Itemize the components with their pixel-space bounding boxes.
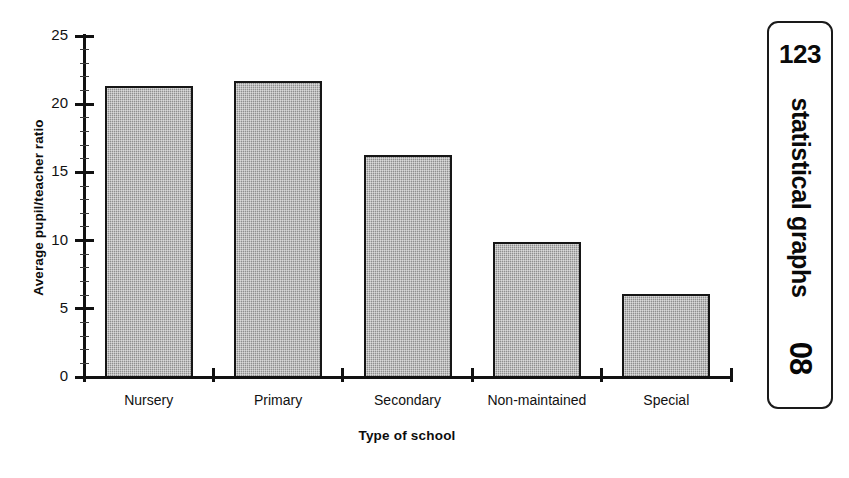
y-axis-major-tick — [75, 307, 94, 310]
y-axis-minor-tick — [80, 117, 89, 118]
side-tab-section-label: statistical graphs — [786, 97, 815, 297]
x-axis-line — [83, 376, 731, 379]
x-axis-title: Type of school — [83, 428, 731, 443]
side-tab-section: statistical graphs — [769, 75, 831, 325]
y-axis-minor-tick — [80, 199, 89, 200]
side-tab-number: 123 — [769, 39, 831, 70]
y-axis-minor-tick — [80, 281, 89, 282]
y-axis-minor-tick — [80, 226, 89, 227]
y-axis-minor-tick — [80, 254, 89, 255]
y-axis-minor-tick — [80, 322, 89, 323]
bar-chart-figure: Average pupil/teacher ratio 0510152025 N… — [0, 0, 760, 478]
x-axis-tick — [341, 368, 344, 382]
y-axis-tick-label: 5 — [40, 299, 68, 316]
y-axis-tick-label: 10 — [40, 231, 68, 248]
bar — [105, 86, 193, 379]
y-axis-major-tick — [75, 171, 94, 174]
y-axis-line — [83, 34, 86, 379]
y-axis-tick-label: 20 — [40, 94, 68, 111]
y-axis-minor-tick — [80, 363, 89, 364]
y-axis-minor-tick — [80, 131, 89, 132]
x-axis-tick — [212, 368, 215, 382]
y-axis-tick-label: 25 — [40, 26, 68, 43]
x-axis-tick — [471, 368, 474, 382]
y-axis-minor-tick — [80, 336, 89, 337]
bar — [364, 155, 452, 379]
y-axis-minor-tick — [80, 267, 89, 268]
y-axis-minor-tick — [80, 295, 89, 296]
y-axis-title: Average pupil/teacher ratio — [31, 93, 46, 323]
side-tab-page: 08 — [769, 323, 831, 393]
y-axis-minor-tick — [80, 76, 89, 77]
y-axis-major-tick — [75, 239, 94, 242]
x-axis-tick — [600, 368, 603, 382]
bar — [234, 81, 322, 379]
bar — [493, 242, 581, 379]
y-axis-minor-tick — [80, 49, 89, 50]
x-axis-tick — [730, 368, 733, 382]
y-axis-minor-tick — [80, 145, 89, 146]
x-axis-tick — [83, 368, 86, 382]
x-axis-category-label: Special — [586, 392, 746, 408]
y-axis-minor-tick — [80, 213, 89, 214]
y-axis-tick-label: 15 — [40, 162, 68, 179]
side-tab: 123 statistical graphs 08 — [767, 21, 833, 409]
y-axis-minor-tick — [80, 158, 89, 159]
y-axis-major-tick — [75, 35, 94, 38]
side-tab-page-number: 08 — [782, 342, 818, 374]
y-axis-minor-tick — [80, 349, 89, 350]
y-axis-major-tick — [75, 103, 94, 106]
y-axis-tick-label: 0 — [40, 367, 68, 384]
y-axis-minor-tick — [80, 63, 89, 64]
bar — [622, 294, 710, 379]
y-axis-minor-tick — [80, 90, 89, 91]
y-axis-minor-tick — [80, 186, 89, 187]
